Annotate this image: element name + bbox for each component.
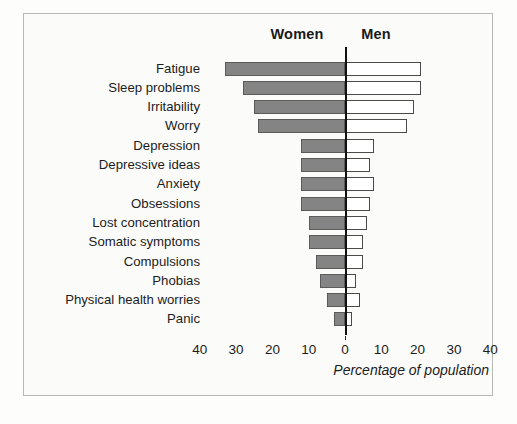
bar-women bbox=[301, 139, 345, 153]
axis-tick bbox=[345, 336, 346, 340]
bar-women bbox=[225, 62, 345, 76]
chart-row: Sleep problems bbox=[0, 78, 517, 97]
bar-men bbox=[345, 158, 370, 172]
bar-men bbox=[345, 139, 374, 153]
bar-women bbox=[309, 216, 345, 230]
chart-row: Fatigue bbox=[0, 59, 517, 78]
chart-row: Phobias bbox=[0, 271, 517, 290]
bar-men bbox=[345, 216, 367, 230]
bar-men bbox=[345, 81, 421, 95]
plot-area: FatigueSleep problemsIrritabilityWorryDe… bbox=[0, 0, 517, 424]
category-label: Lost concentration bbox=[92, 216, 200, 229]
category-label: Panic bbox=[167, 313, 200, 326]
bar-men bbox=[345, 274, 356, 288]
bar-men bbox=[345, 255, 363, 269]
chart-row: Compulsions bbox=[0, 252, 517, 271]
chart-row: Lost concentration bbox=[0, 213, 517, 232]
bar-women bbox=[309, 235, 345, 249]
bar-men bbox=[345, 177, 374, 191]
chart-row: Irritability bbox=[0, 98, 517, 117]
category-label: Anxiety bbox=[157, 178, 200, 191]
category-label: Somatic symptoms bbox=[89, 236, 200, 249]
axis-tick-label: 40 bbox=[483, 342, 498, 357]
x-axis-caption: Percentage of population bbox=[333, 362, 489, 378]
category-label: Sleep problems bbox=[108, 81, 200, 94]
zero-axis-line bbox=[345, 47, 347, 335]
bar-men bbox=[345, 293, 360, 307]
axis-tick-label: 30 bbox=[446, 342, 461, 357]
axis-tick-label: 30 bbox=[229, 342, 244, 357]
category-label: Phobias bbox=[152, 274, 200, 287]
bar-women bbox=[316, 255, 345, 269]
category-label: Physical health worries bbox=[65, 293, 200, 306]
axis-tick-label: 0 bbox=[341, 342, 349, 357]
category-label: Worry bbox=[165, 120, 200, 133]
bar-men bbox=[345, 235, 363, 249]
chart-row: Somatic symptoms bbox=[0, 233, 517, 252]
bar-women bbox=[254, 100, 345, 114]
chart-figure: Women Men FatigueSleep problemsIrritabil… bbox=[0, 0, 517, 424]
category-label: Irritability bbox=[147, 100, 200, 113]
category-label: Obsessions bbox=[131, 197, 200, 210]
chart-row: Obsessions bbox=[0, 194, 517, 213]
axis-tick-label: 20 bbox=[410, 342, 425, 357]
chart-row: Depressive ideas bbox=[0, 156, 517, 175]
axis-tick-label: 40 bbox=[192, 342, 207, 357]
axis-tick-label: 20 bbox=[265, 342, 280, 357]
bar-women bbox=[243, 81, 345, 95]
category-label: Depression bbox=[133, 139, 200, 152]
bar-women bbox=[258, 119, 345, 133]
bar-men bbox=[345, 197, 370, 211]
chart-row: Anxiety bbox=[0, 175, 517, 194]
category-label: Fatigue bbox=[156, 62, 200, 75]
chart-row: Physical health worries bbox=[0, 291, 517, 310]
category-label: Compulsions bbox=[124, 255, 200, 268]
x-axis: 40302010010203040 bbox=[0, 336, 517, 360]
bar-men bbox=[345, 119, 407, 133]
axis-tick-label: 10 bbox=[374, 342, 389, 357]
bar-women bbox=[301, 177, 345, 191]
bar-women bbox=[301, 197, 345, 211]
chart-row: Panic bbox=[0, 310, 517, 329]
bar-women bbox=[334, 312, 345, 326]
bar-women bbox=[301, 158, 345, 172]
axis-tick-label: 10 bbox=[301, 342, 316, 357]
chart-row: Worry bbox=[0, 117, 517, 136]
bar-men bbox=[345, 100, 414, 114]
chart-row: Depression bbox=[0, 136, 517, 155]
bar-men bbox=[345, 62, 421, 76]
category-label: Depressive ideas bbox=[99, 158, 200, 171]
bar-women bbox=[320, 274, 345, 288]
bar-women bbox=[327, 293, 345, 307]
